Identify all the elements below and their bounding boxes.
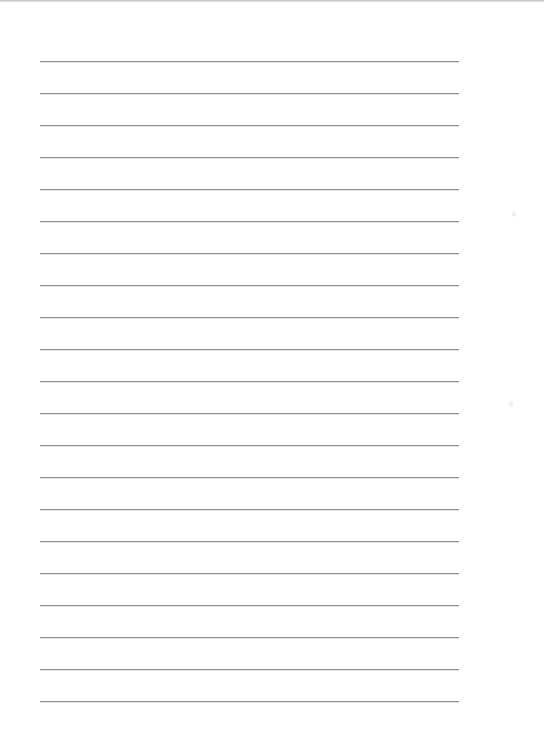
ruled-line (40, 477, 459, 478)
ruled-line (40, 285, 459, 286)
lined-page (0, 0, 544, 741)
ruled-line (40, 381, 459, 382)
ruled-line (40, 349, 459, 350)
ruled-line (40, 221, 459, 222)
ruled-line (40, 605, 459, 606)
ruled-line (40, 61, 459, 62)
ruled-line (40, 93, 459, 94)
ruled-line (40, 669, 459, 670)
ruled-line (40, 573, 459, 574)
ruled-line (40, 189, 459, 190)
ruled-line (40, 701, 459, 702)
ruled-line (40, 125, 459, 126)
ruled-line (40, 157, 459, 158)
ruled-line (40, 413, 459, 414)
scan-artifact (512, 211, 516, 217)
ruled-line (40, 317, 459, 318)
ruled-line (40, 541, 459, 542)
ruled-line (40, 253, 459, 254)
ruled-line (40, 509, 459, 510)
scan-artifact (509, 401, 513, 407)
ruled-line (40, 637, 459, 638)
ruled-line (40, 445, 459, 446)
